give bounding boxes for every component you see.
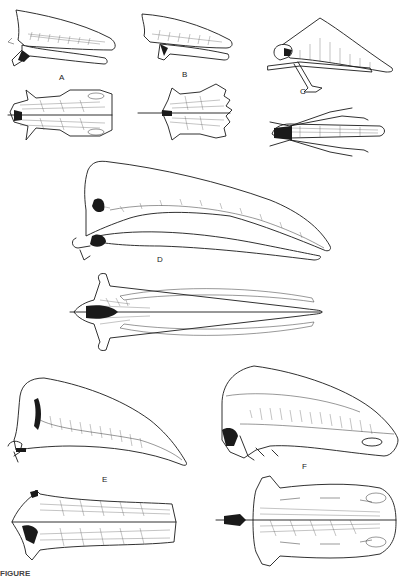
figure-c-lateral xyxy=(268,18,393,92)
figure-c-ventral xyxy=(270,108,385,156)
figure-b-lateral xyxy=(142,14,232,60)
figure-label-e: E xyxy=(102,475,107,484)
figure-a-lateral xyxy=(8,10,115,66)
figure-label-d: D xyxy=(157,255,163,264)
figure-label-f: F xyxy=(302,462,307,471)
figure-a-ventral xyxy=(8,90,112,140)
figure-b-ventral xyxy=(138,84,232,140)
figure-label-a: A xyxy=(59,73,64,82)
figure-caption: FIGURE xyxy=(0,569,405,579)
figure-e-lateral xyxy=(8,378,187,465)
figure-label-b: B xyxy=(182,70,187,79)
figure-label-c: C xyxy=(300,87,306,96)
figure-f-ventral xyxy=(216,476,396,566)
figure-e-ventral xyxy=(12,490,176,560)
figure-d-ventral xyxy=(70,273,322,350)
figure-d-lateral xyxy=(72,161,330,260)
figure-f-lateral xyxy=(222,366,398,460)
